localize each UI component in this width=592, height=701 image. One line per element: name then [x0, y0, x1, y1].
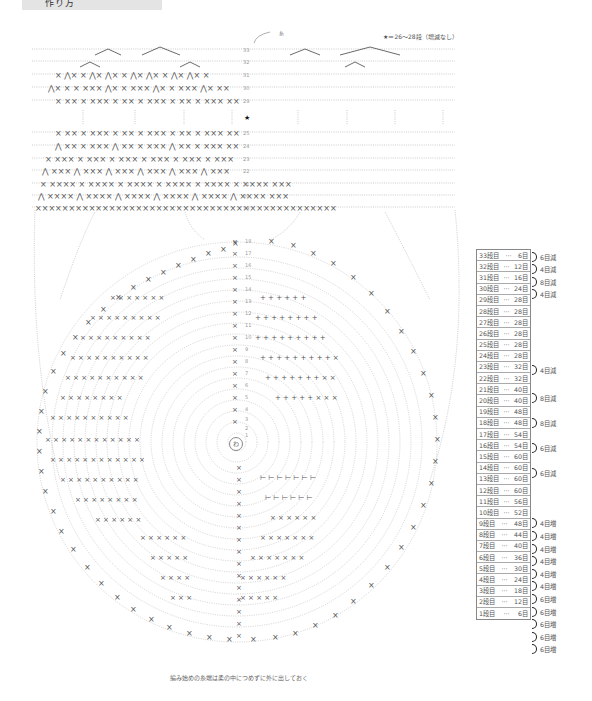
change-annotation: 4目増 [532, 518, 556, 528]
svg-text:×: × [236, 572, 242, 580]
svg-text:×: × [232, 262, 238, 270]
svg-text:11: 11 [245, 322, 251, 328]
leader-dots: ··· [503, 330, 509, 337]
curved-arrow-icon [532, 531, 537, 541]
svg-text:×: × [232, 298, 238, 306]
svg-text:×: × [38, 467, 45, 476]
svg-text:31: 31 [243, 72, 249, 78]
table-row: 7段目···40目 [477, 541, 530, 552]
row-label: 1段目 [479, 609, 495, 618]
change-label: 4目増 [540, 545, 556, 554]
curved-arrow-icon [532, 277, 537, 287]
svg-text:×: × [114, 593, 121, 602]
svg-text:×: × [130, 283, 137, 292]
svg-text:×: × [236, 548, 242, 556]
svg-text:×: × [236, 536, 242, 544]
svg-text:24: 24 [243, 143, 249, 149]
change-annotation: 6目増 [532, 644, 556, 654]
stitch-count: 30目 [514, 564, 528, 573]
svg-text:17: 17 [245, 250, 251, 256]
curved-arrow-icon [532, 289, 537, 299]
svg-text:××××××××××××××××××××××××××××××: ××××××××××××××××××××××××××××××××××××××××… [35, 204, 337, 213]
change-annotation: 4目増 [532, 556, 556, 566]
table-row: 3段目···18目 [477, 586, 530, 597]
stitch-count: 28目 [514, 307, 528, 316]
svg-text:× × × × ×: × × × × × [150, 554, 188, 562]
change-label: 4目増 [540, 570, 556, 579]
svg-text:10: 10 [245, 334, 251, 340]
table-row: 13段目···60目 [477, 474, 530, 485]
table-row: 6段目···36目 [477, 552, 530, 563]
svg-text:×: × [350, 273, 357, 282]
stitch-count: 60目 [514, 474, 528, 483]
change-label: 4目減 [540, 366, 556, 375]
change-label: 4目増 [540, 582, 556, 591]
svg-text:×: × [232, 286, 238, 294]
leader-dots: ··· [501, 520, 507, 527]
stitch-count: 32目 [514, 362, 528, 371]
change-annotation: 8目減 [532, 277, 556, 287]
change-annotation: 6目減 [532, 468, 556, 478]
row-label: 3段目 [479, 586, 495, 595]
svg-text:× × × × × × × × × ×: × × × × × × × × × × [65, 374, 144, 382]
svg-text:1: 1 [245, 432, 248, 438]
svg-text:×: × [330, 259, 337, 268]
star-marker: ★ [244, 114, 250, 122]
svg-text:×: × [236, 584, 242, 592]
stitch-count: 44目 [514, 530, 528, 539]
table-row: 25段目···28目 [477, 340, 530, 351]
change-label: 6目減 [540, 469, 556, 478]
stitch-count: 24目 [514, 284, 528, 293]
svg-text:×: × [350, 597, 357, 606]
svg-text:×: × [432, 457, 439, 466]
svg-text:×: × [368, 581, 375, 590]
stitch-count: 12目 [514, 262, 528, 271]
row-label: 7段目 [479, 541, 495, 550]
curved-arrow-icon [532, 644, 537, 654]
row-label: 31段目 [479, 273, 499, 282]
svg-text:+ + + + + + + + +: + + + + + + + + + [255, 334, 326, 342]
svg-text:×: × [432, 413, 439, 422]
stitch-count: 60目 [514, 486, 528, 495]
svg-text:4: 4 [245, 406, 248, 412]
svg-text:⋀× × × ××× ⋀× × ××× ⋀×: ⋀× × × ××× ⋀× × ××× ⋀× × ××× ⋀× ×× [47, 84, 230, 93]
stitch-count: 60目 [514, 452, 528, 461]
leader-dots: ··· [501, 587, 507, 594]
svg-text:23: 23 [243, 156, 249, 162]
stitch-count: 24目 [514, 575, 528, 584]
svg-text:× ××× × ××× × ××× × ×××: × ××× × ××× × ××× × ××× × ××× × ××× [45, 155, 234, 164]
stitch-count: 54目 [514, 430, 528, 439]
change-label: 8目減 [540, 278, 556, 287]
change-annotation: 4目増 [532, 581, 556, 591]
curved-arrow-icon [532, 556, 537, 566]
row-label: 17段目 [479, 430, 499, 439]
svg-text:18: 18 [245, 238, 251, 244]
stitch-count: 6目 [518, 609, 528, 618]
change-label: 6目減 [540, 444, 556, 453]
svg-text:× × × × × × × × × × × ×: × × × × × × × × × × × × [50, 456, 145, 464]
svg-text:+ + + + + + + +: + + + + + + + + [255, 314, 318, 322]
row-label: 23段目 [479, 362, 499, 371]
leader-dots: ··· [505, 252, 511, 259]
svg-text:×: × [42, 387, 49, 396]
row-label: 13段目 [479, 474, 499, 483]
svg-text:×: × [332, 611, 339, 620]
change-label: 4目増 [540, 557, 556, 566]
svg-text:×: × [84, 563, 91, 572]
svg-text:×: × [175, 261, 182, 270]
table-row: 17段目···54目 [477, 429, 530, 440]
curved-arrow-icon [532, 569, 537, 579]
svg-text:⊢ ⊢ ⊢ ⊢ ⊢ ⊢ ⊢: ⊢ ⊢ ⊢ ⊢ ⊢ ⊢ ⊢ [260, 474, 316, 482]
row-label: 18段目 [479, 418, 499, 427]
row-label: 19段目 [479, 407, 499, 416]
svg-text:7: 7 [245, 370, 248, 376]
svg-text:×: × [232, 418, 238, 426]
leader-dots: ··· [503, 352, 509, 359]
svg-text:14: 14 [245, 286, 251, 292]
leader-dots: ··· [503, 308, 509, 315]
svg-text:×: × [232, 322, 238, 330]
svg-text:× ×× × ××× × ×× × ×××: × ×× × ××× × ×× × ××× × ×× × ××× ×× [55, 129, 240, 138]
leader-dots: ··· [503, 263, 509, 270]
stitch-count: 12目 [514, 597, 528, 606]
stitch-count: 48目 [514, 519, 528, 528]
